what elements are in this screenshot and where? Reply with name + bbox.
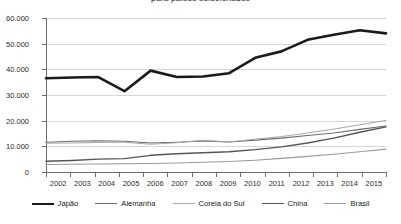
- x-tick-label: 2009: [220, 179, 237, 188]
- x-tick-label: 2003: [74, 179, 91, 188]
- x-tick-label: 2010: [244, 179, 261, 188]
- x-tick-mark: [386, 172, 387, 177]
- x-tick-label: 2011: [269, 179, 285, 188]
- legend-swatch-icon: [32, 203, 54, 205]
- chart-legend: JapãoAlemanhaCoreia do SulChinaBrasil: [0, 199, 401, 208]
- legend-label: Brasil: [350, 199, 369, 208]
- x-tick-mark: [192, 172, 193, 177]
- x-tick-mark: [313, 172, 314, 177]
- legend-swatch-icon: [262, 203, 284, 204]
- legend-item[interactable]: China: [262, 199, 308, 208]
- x-tick-label: 2012: [293, 179, 310, 188]
- legend-label: China: [288, 199, 308, 208]
- y-tick-label: 50.000: [6, 39, 29, 48]
- legend-item[interactable]: Coreia do Sul: [173, 199, 245, 208]
- chart-title: para países selecionados: [0, 0, 401, 3]
- series-line: [46, 127, 386, 161]
- legend-label: Alemanha: [121, 199, 155, 208]
- legend-item[interactable]: Japão: [32, 199, 79, 208]
- x-tick-label: 2005: [123, 179, 140, 188]
- series-lines: [46, 18, 386, 172]
- x-tick-mark: [240, 172, 241, 177]
- legend-swatch-icon: [173, 203, 195, 204]
- x-tick-mark: [95, 172, 96, 177]
- y-tick-label: 60.000: [6, 14, 29, 23]
- y-tick-label: 30.000: [6, 91, 29, 100]
- x-tick-label: 2014: [341, 179, 358, 188]
- legend-swatch-icon: [324, 203, 346, 204]
- y-tick-label: 10.000: [6, 142, 29, 151]
- legend-label: Japão: [58, 199, 79, 208]
- x-tick-label: 2013: [317, 179, 334, 188]
- x-tick-label: 2004: [98, 179, 115, 188]
- x-tick-label: 2002: [50, 179, 67, 188]
- legend-swatch-icon: [95, 203, 117, 204]
- legend-item[interactable]: Brasil: [324, 199, 369, 208]
- x-tick-mark: [265, 172, 266, 177]
- x-tick-mark: [289, 172, 290, 177]
- x-tick-label: 2007: [171, 179, 188, 188]
- x-tick-label: 2006: [147, 179, 164, 188]
- y-tick-label: 40.000: [6, 65, 29, 74]
- x-tick-mark: [119, 172, 120, 177]
- x-tick-mark: [143, 172, 144, 177]
- x-tick-mark: [337, 172, 338, 177]
- y-tick-label: 20.000: [6, 116, 29, 125]
- x-tick-mark: [362, 172, 363, 177]
- x-tick-mark: [167, 172, 168, 177]
- x-tick-mark: [70, 172, 71, 177]
- series-line: [46, 149, 386, 164]
- x-tick-mark: [46, 172, 47, 177]
- legend-label: Coreia do Sul: [199, 199, 245, 208]
- x-tick-mark: [216, 172, 217, 177]
- x-tick-label: 2008: [196, 179, 213, 188]
- y-tick-label: 0: [25, 168, 29, 177]
- line-chart: para países selecionados 010.00020.00030…: [0, 0, 401, 224]
- legend-item[interactable]: Alemanha: [95, 199, 155, 208]
- x-tick-label: 2015: [366, 179, 383, 188]
- series-line: [46, 30, 386, 91]
- plot-area: 010.00020.00030.00040.00050.00060.000 20…: [46, 18, 386, 172]
